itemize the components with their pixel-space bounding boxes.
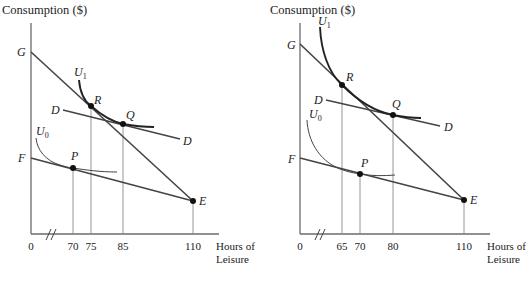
left-label-U0: U0 xyxy=(36,124,49,140)
right-label-P: P xyxy=(360,156,369,170)
right-x-axis-label-line1: Hours of xyxy=(487,240,526,252)
left-tick-75: 75 xyxy=(86,240,98,252)
right-indifference-curve-U0 xyxy=(307,120,395,176)
left-point-P xyxy=(70,165,76,171)
right-point-P xyxy=(357,171,363,177)
right-label-D-end: D xyxy=(443,120,453,134)
right-tick-110: 110 xyxy=(456,240,473,252)
left-tick-110: 110 xyxy=(185,240,202,252)
right-indifference-curve-U1 xyxy=(320,27,421,118)
right-budget-line-GE xyxy=(300,44,464,200)
right-point-E xyxy=(461,197,467,203)
right-label-U0: U0 xyxy=(309,107,322,123)
right-panel: Consumption ($) G F E P R Q D D xyxy=(270,3,526,265)
right-label-F: F xyxy=(287,152,296,166)
left-tick-0: 0 xyxy=(28,240,34,252)
left-tick-85: 85 xyxy=(118,240,130,252)
right-budget-line-FE xyxy=(300,158,464,200)
left-point-E xyxy=(190,198,196,204)
right-tick-65: 65 xyxy=(337,240,349,252)
diagram-canvas: Consumption ($) G F E P R Q D xyxy=(0,0,529,284)
left-label-P: P xyxy=(70,149,79,163)
right-label-G: G xyxy=(287,38,296,52)
right-tick-70: 70 xyxy=(355,240,367,252)
left-x-axis-label-line2: Leisure xyxy=(216,253,249,265)
right-tick-0: 0 xyxy=(297,240,303,252)
left-label-D-end: D xyxy=(182,134,192,148)
left-label-U1: U1 xyxy=(74,65,87,81)
right-label-Q: Q xyxy=(392,97,401,111)
left-label-Q: Q xyxy=(126,108,135,122)
right-y-axis-label: Consumption ($) xyxy=(270,3,355,17)
left-label-R: R xyxy=(93,93,102,107)
right-x-axis-label-line2: Leisure xyxy=(487,253,520,265)
right-label-R: R xyxy=(345,70,354,84)
left-budget-line-GE xyxy=(31,52,193,201)
left-label-E: E xyxy=(198,194,207,208)
left-y-axis-label: Consumption ($) xyxy=(2,3,87,17)
right-point-Q xyxy=(390,112,396,118)
right-tick-80: 80 xyxy=(388,240,400,252)
right-label-D-start: D xyxy=(313,93,323,107)
left-tick-70: 70 xyxy=(68,240,80,252)
left-label-D-start: D xyxy=(50,103,60,117)
left-label-F: F xyxy=(17,151,26,165)
left-panel: Consumption ($) G F E P R Q D xyxy=(2,3,255,265)
left-label-G: G xyxy=(17,45,26,59)
right-label-E: E xyxy=(469,193,478,207)
left-x-axis-label-line1: Hours of xyxy=(216,240,255,252)
right-point-R xyxy=(339,82,345,88)
